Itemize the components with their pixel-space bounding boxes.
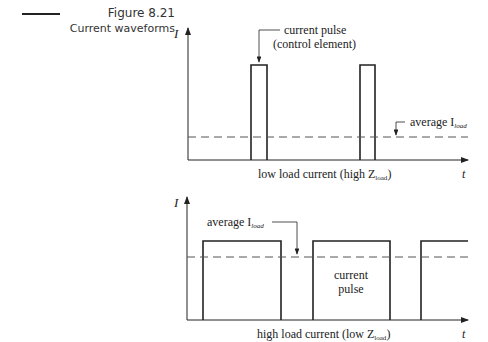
waveform-diagram: I t current pulse (control element) aver…: [0, 0, 488, 342]
top-y-label: I: [173, 26, 179, 41]
top-average-label: average Iload: [410, 115, 467, 130]
bottom-pulse-label-2: pulse: [338, 282, 363, 296]
top-pulse-label-2: (control element): [273, 37, 356, 51]
top-graph: I t current pulse (control element) aver…: [173, 23, 468, 182]
bottom-pulse-1: [203, 241, 281, 320]
bottom-average-label: average Iload: [207, 215, 264, 230]
bottom-graph: I t average Iload current pulse high loa…: [173, 195, 468, 342]
top-average-pointer: [396, 122, 405, 135]
top-pulse-2: [360, 65, 375, 160]
bottom-y-label: I: [173, 195, 179, 210]
bottom-pulse-label-1: current: [334, 268, 369, 282]
top-x-label: t: [462, 167, 466, 181]
bottom-x-label: t: [462, 327, 466, 341]
bottom-average-pointer: [272, 222, 297, 254]
top-pulse-label-1: current pulse: [284, 23, 346, 37]
bottom-caption: high load current (low Zload): [257, 327, 390, 342]
top-caption: low load current (high Zload): [258, 167, 391, 182]
bottom-pulse-3: [421, 241, 468, 320]
top-pulse-1: [251, 65, 267, 160]
